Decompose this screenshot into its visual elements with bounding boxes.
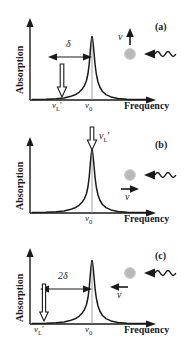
y-axis-label-a: Absorption	[14, 46, 25, 94]
absorption-curve-a	[32, 37, 146, 100]
absorption-curve-b	[32, 150, 146, 213]
atom-a	[125, 49, 136, 60]
tick-nu-zero-b: ν0	[85, 213, 92, 225]
photon-arrow-a	[144, 50, 176, 59]
photon-arrow-b	[144, 171, 176, 180]
photon-arrow-c	[144, 269, 176, 278]
laser-arrow-a	[57, 64, 66, 97]
y-axis-a	[26, 18, 33, 100]
panel-tag-c: (c)	[155, 250, 166, 261]
laser-arrow-b	[87, 127, 96, 150]
velocity-label-a: v	[118, 31, 122, 42]
detuning-arrow-c	[40, 286, 92, 293]
tick-nu-zero-a: ν0	[85, 100, 92, 112]
panel-a-graphic	[0, 0, 185, 115]
panel-a: Absorption Frequency νL′ ν0 δ v (a)	[0, 0, 185, 115]
tick-nu-zero-c: ν0	[85, 324, 92, 336]
panel-c: Absorption Frequency νL′ ν0 2δ v (c)	[0, 228, 185, 343]
panel-tag-b: (b)	[155, 139, 167, 150]
panel-b-graphic	[0, 113, 185, 228]
detuning-arrow-a	[48, 54, 92, 61]
velocity-label-b: v	[125, 191, 129, 202]
tick-nu-l-prime-a: νL′	[52, 100, 62, 112]
detuning-label-c: 2δ	[58, 270, 68, 281]
panel-tag-a: (a)	[155, 21, 167, 32]
doppler-absorption-figure: Absorption Frequency νL′ ν0 δ v (a)	[0, 0, 185, 346]
velocity-arrow-a	[126, 28, 134, 45]
atom-c	[125, 268, 136, 279]
y-axis-c	[26, 248, 33, 324]
laser-label-b: νL′	[99, 130, 110, 143]
tick-nu-l-prime-c: νL′	[34, 324, 44, 336]
x-axis-label-c: Frequency	[124, 324, 169, 335]
y-axis-label-c: Absorption	[14, 274, 25, 322]
x-axis-label-a: Frequency	[124, 100, 169, 111]
x-axis-label-b: Frequency	[124, 213, 169, 224]
detuning-label-a: δ	[66, 38, 71, 49]
atom-b	[125, 170, 136, 181]
y-axis-label-b: Absorption	[14, 162, 25, 210]
y-axis-b	[26, 137, 33, 213]
velocity-arrow-b	[121, 185, 139, 193]
panel-b: Absorption Frequency ν0 νL′ v (b)	[0, 113, 185, 228]
velocity-label-c: v	[117, 289, 121, 300]
